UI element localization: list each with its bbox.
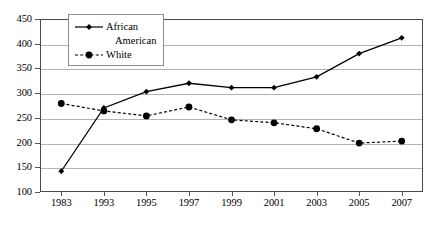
data-point-marker	[271, 85, 277, 91]
legend-line-icon	[74, 48, 104, 62]
series-2	[58, 100, 405, 146]
legend-label: White	[106, 48, 132, 62]
data-point-marker	[143, 112, 150, 119]
data-point-marker	[229, 85, 235, 91]
legend-line-icon	[74, 20, 104, 34]
data-point-marker	[186, 80, 192, 86]
data-point-marker	[228, 116, 235, 123]
data-point-marker	[314, 74, 320, 80]
data-point-marker	[186, 104, 193, 111]
data-point-marker	[399, 35, 405, 41]
data-point-marker	[58, 100, 65, 107]
series-layer	[0, 0, 433, 226]
data-point-marker	[143, 89, 149, 95]
data-point-marker	[100, 108, 107, 115]
data-point-marker	[313, 125, 320, 132]
legend-label: African	[106, 20, 138, 34]
legend-item-1[interactable]: African	[69, 20, 165, 34]
data-point-marker	[271, 119, 278, 126]
legend-label-line2: American	[115, 34, 156, 48]
chart-legend: AfricanAmericanWhite	[68, 14, 164, 66]
data-point-marker	[356, 140, 363, 147]
line-chart: 100150200250300350400450 198319931995199…	[0, 0, 433, 226]
data-point-marker	[356, 51, 362, 57]
data-point-marker	[398, 138, 405, 145]
series-line	[61, 104, 401, 144]
legend-item-2[interactable]: White	[69, 48, 165, 62]
